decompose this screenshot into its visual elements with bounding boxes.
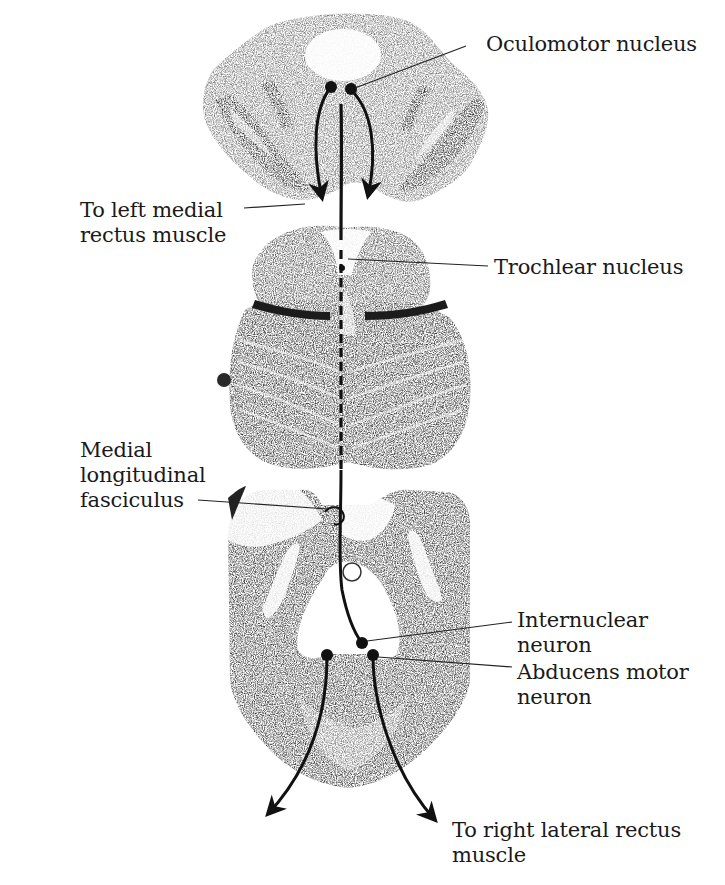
- oculomotor-neuron-left: [325, 81, 337, 93]
- abducens-neuron-left-dot: [321, 649, 333, 661]
- abducens-neuron-right-dot: [367, 649, 379, 661]
- label-mlf: Medial longitudinal fasciculus: [80, 438, 206, 513]
- abducens-pons-section: [228, 486, 470, 788]
- leader-left-medial-rectus: [244, 204, 305, 208]
- label-oculomotor-nucleus: Oculomotor nucleus: [486, 32, 697, 57]
- trochlear-dot: [339, 265, 345, 271]
- label-trochlear-nucleus: Trochlear nucleus: [494, 255, 683, 280]
- trochlear-pons-section: [217, 226, 470, 470]
- label-left-medial-rectus: To left medial rectus muscle: [80, 198, 226, 248]
- label-internuclear-neuron: Internuclear neuron: [517, 608, 648, 658]
- midbrain-section: [203, 14, 488, 202]
- label-abducens-motor-neuron: Abducens motor neuron: [517, 660, 689, 710]
- label-right-lateral-rectus: To right lateral rectus muscle: [452, 818, 681, 868]
- internuclear-neuron-dot: [356, 637, 368, 649]
- oculomotor-neuron-right: [345, 83, 357, 95]
- diagram-stage: Oculomotor nucleus To left medial rectus…: [0, 0, 725, 885]
